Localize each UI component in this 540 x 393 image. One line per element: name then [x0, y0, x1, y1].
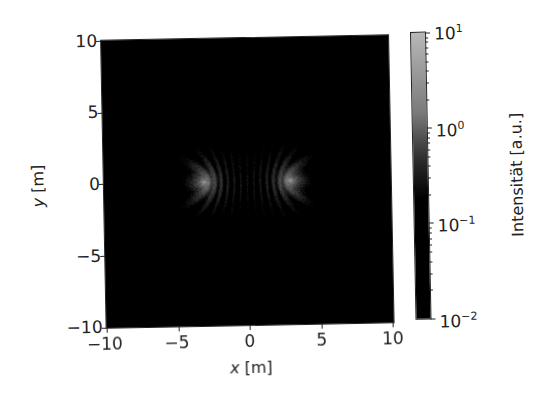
colorbar-minor-tick: [425, 54, 428, 55]
x-tick-mark: [250, 325, 251, 330]
colorbar-minor-tick: [429, 232, 432, 233]
colorbar-minor-tick: [429, 252, 432, 253]
colorbar-minor-tick: [427, 137, 430, 138]
x-axis-label: x [m]: [230, 358, 273, 378]
tick-base: 10: [438, 215, 460, 235]
colorbar-minor-ticks: [0, 0, 536, 5]
colorbar-minor-tick: [429, 238, 432, 239]
heatmap-plot-area: [101, 35, 393, 327]
figure: y [m] 10 5 0 −5 −10 −10 −5 0 5 10 x [m] …: [0, 0, 540, 393]
colorbar-minor-tick: [428, 195, 431, 196]
y-tick-label: 10: [75, 33, 97, 50]
colorbar-major-tick: [425, 33, 430, 34]
tick-exponent: −1: [459, 214, 475, 227]
colorbar-minor-tick: [429, 244, 432, 245]
colorbar-minor-tick: [427, 132, 430, 133]
tick-exponent: 1: [455, 22, 462, 35]
x-tick-label: 10: [382, 330, 404, 347]
colorbar-minor-tick: [428, 178, 431, 179]
colorbar-minor-tick: [426, 61, 429, 62]
y-axis-label: y [m]: [28, 165, 48, 208]
colorbar-minor-tick: [427, 143, 430, 144]
colorbar-minor-tick: [430, 273, 433, 274]
x-tick-label: 0: [244, 333, 255, 350]
colorbar-label: Intensität [a.u.]: [506, 113, 527, 237]
x-tick-label: −5: [164, 334, 189, 351]
x-tick-label: −10: [87, 335, 123, 353]
x-axis-unit: [m]: [244, 358, 272, 378]
tick-base: 10: [436, 120, 458, 140]
colorbar-minor-tick: [430, 290, 433, 291]
y-axis-unit: [m]: [28, 165, 48, 193]
x-tick-label: 5: [316, 332, 327, 349]
colorbar-minor-tick: [425, 37, 428, 38]
colorbar-tick-label: 10−1: [437, 212, 475, 235]
tick-base: 10: [434, 23, 456, 43]
colorbar-minor-tick: [425, 42, 428, 43]
colorbar-minor-tick: [425, 47, 428, 48]
x-tick-mark: [179, 326, 180, 331]
x-tick-mark: [322, 324, 323, 329]
colorbar-minor-tick: [427, 149, 430, 150]
tick-exponent: 0: [457, 119, 464, 132]
interference-heatmap: [101, 35, 393, 327]
y-tick-label: −5: [76, 248, 101, 265]
colorbar-minor-tick: [426, 71, 429, 72]
y-axis-var: y: [29, 198, 48, 208]
colorbar-tick-label: 100: [436, 117, 465, 140]
colorbar: [411, 33, 430, 319]
colorbar-minor-tick: [429, 261, 432, 262]
colorbar-minor-tick: [426, 82, 429, 83]
x-tick-mark: [393, 322, 394, 327]
x-tick-mark: [107, 328, 108, 333]
tick-base: 10: [439, 311, 461, 331]
colorbar-minor-tick: [429, 228, 432, 229]
colorbar-minor-tick: [427, 157, 430, 158]
colorbar-minor-tick: [428, 166, 431, 167]
colorbar-tick-label: 101: [434, 20, 463, 43]
colorbar-tick-label: 10−2: [439, 308, 477, 331]
colorbar-major-tick: [431, 318, 436, 319]
colorbar-major-tick: [427, 127, 432, 128]
tick-exponent: −2: [461, 310, 477, 323]
x-axis-var: x: [230, 358, 240, 377]
colorbar-major-tick: [429, 222, 434, 223]
colorbar-minor-tick: [426, 99, 429, 100]
